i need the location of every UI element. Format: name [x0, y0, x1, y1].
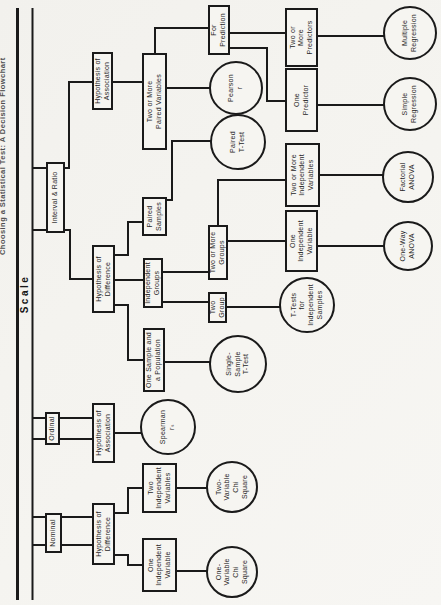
- node-label: Independent: [298, 154, 307, 196]
- node-label: Two or: [289, 26, 298, 49]
- node-label: ANOVA: [408, 233, 417, 258]
- node-independent-groups: IndependentGroups: [143, 258, 163, 308]
- node-label: Single-: [225, 352, 234, 376]
- node-label: Association: [104, 414, 113, 453]
- node-multiple-regression: MultipleRegression: [383, 6, 437, 60]
- node-two-or-more-predictors: Two orMorePredictors: [285, 8, 318, 67]
- node-label: Paired Variables: [155, 74, 164, 129]
- node-label: Samples: [316, 291, 325, 320]
- node-one-independent-variable-interval: OneIndependentVariable: [285, 210, 318, 272]
- node-label: For: [210, 24, 219, 35]
- node-label: Square: [241, 560, 250, 584]
- node-label: T-Test: [242, 354, 251, 375]
- node-spearman-rs: Spearmanrₛ: [140, 399, 196, 455]
- node-label: Samples: [155, 202, 164, 231]
- node-hypothesis-difference-nominal: Hypothesis ofDifference: [92, 503, 115, 565]
- node-label: Variable: [223, 473, 232, 500]
- node-two-or-more-paired-variables: Two or MorePaired Variables: [142, 53, 167, 150]
- node-label: One: [147, 558, 156, 572]
- connector-edge: [65, 230, 92, 279]
- node-label: Group: [218, 297, 227, 318]
- node-label: Simple: [401, 93, 410, 116]
- node-label: for: [298, 301, 307, 310]
- connector-edge: [167, 141, 214, 200]
- node-label: Square: [241, 475, 250, 499]
- node-label: Chi: [232, 566, 241, 577]
- node-label: rₛ: [168, 424, 177, 430]
- connector-edge: [115, 305, 143, 360]
- node-label: One-Way: [399, 230, 408, 261]
- node-label: Difference: [104, 517, 113, 551]
- node-label: Independent: [297, 220, 306, 262]
- node-label: T-Tests: [290, 293, 299, 317]
- scanned-flowchart-page: Choosing a Statistical Test: A Decision …: [0, 0, 441, 605]
- node-pearson-r: Pearsonr: [209, 61, 263, 115]
- node-paired-samples: PairedSamples: [142, 197, 167, 236]
- node-paired-t-test: PairedT-Test: [210, 114, 266, 170]
- node-single-sample-t-test: Single-SampleT-Test: [209, 335, 267, 393]
- node-interval-ratio: Interval & Ratio: [46, 162, 65, 233]
- node-hypothesis-difference-interval: Hypothesis ofDifference: [92, 245, 115, 313]
- node-simple-regression: SimpleRegression: [383, 77, 437, 131]
- node-one-way-anova: One-WayANOVA: [383, 221, 433, 271]
- node-label: One: [293, 93, 302, 107]
- node-label: One: [289, 234, 298, 248]
- node-label: Hypothesis of: [94, 58, 103, 104]
- node-hypothesis-association-ordinal: Hypothesis ofAssociation: [92, 403, 115, 463]
- node-two-or-more-groups: Two or MoreGroups: [208, 225, 228, 280]
- connector-edge: [65, 82, 92, 168]
- node-label: Independent: [155, 544, 164, 586]
- node-label: r: [236, 87, 245, 90]
- node-nominal: Nominal: [45, 513, 62, 553]
- node-label: Nominal: [49, 519, 58, 546]
- node-label: Predictor: [302, 85, 311, 115]
- node-two-or-more-independent-variables: Two or MoreIndependentVariables: [285, 143, 320, 207]
- node-one-independent-variable-nominal: OneIndependentVariable: [142, 538, 177, 592]
- node-two-independent-variables-nominal: TwoIndependentVariables: [142, 463, 177, 513]
- node-label: Difference: [104, 262, 113, 296]
- node-label: Variable: [223, 558, 232, 585]
- node-label: Sample: [234, 351, 243, 376]
- node-label: Hypothesis of: [95, 511, 104, 557]
- node-label: Predictors: [306, 21, 315, 55]
- connector-edge: [115, 222, 142, 255]
- connector-edge: [218, 180, 285, 225]
- node-label: Independent: [144, 262, 153, 304]
- node-label: Paired: [229, 131, 238, 153]
- node-label: Factorial: [399, 162, 408, 191]
- node-ordinal: Ordinal: [45, 412, 60, 445]
- scale-axis-label: Scale: [19, 268, 30, 320]
- node-label: Pearson: [227, 74, 236, 102]
- node-one-predictor: OnePredictor: [285, 68, 318, 132]
- node-label: Paired: [146, 206, 155, 228]
- node-label: Two: [147, 481, 156, 495]
- node-label: Two or More: [209, 232, 218, 274]
- node-label: Hypothesis of: [95, 410, 104, 456]
- diagram-title: Choosing a Statistical Test: A Decision …: [0, 57, 7, 255]
- node-label: Groups: [153, 271, 162, 295]
- node-label: Two or More: [290, 154, 299, 196]
- node-label: Multiple: [401, 20, 410, 46]
- node-label: Variables: [307, 160, 316, 191]
- node-t-tests-for-independent-samples: T-TestsforIndependentSamples: [279, 277, 335, 333]
- node-label: Chi: [232, 481, 241, 492]
- node-label: Groups: [218, 240, 227, 264]
- flowchart-canvas: Choosing a Statistical Test: A Decision …: [0, 0, 441, 605]
- connector-edge: [115, 555, 142, 565]
- node-hypothesis-association-interval: Hypothesis ofAssociation: [92, 52, 113, 110]
- node-factorial-anova: FactorialANOVA: [382, 151, 434, 203]
- node-label: Variables: [164, 473, 173, 504]
- node-label: Association: [103, 62, 112, 101]
- node-label: Hypothesis of: [95, 256, 104, 302]
- node-two-group: TwoGroup: [208, 292, 227, 323]
- node-label: Spearman: [159, 410, 168, 444]
- node-label: Independent: [155, 467, 164, 509]
- node-label: T-Test: [238, 132, 247, 153]
- node-label: Variable: [306, 227, 315, 254]
- node-label: Two: [209, 301, 218, 315]
- node-label: Independent: [307, 284, 316, 326]
- node-for-prediction: ForPrediction: [208, 5, 230, 55]
- node-label: Prediction: [219, 13, 228, 47]
- connector-edge: [155, 28, 208, 53]
- node-label: a Population: [154, 339, 163, 381]
